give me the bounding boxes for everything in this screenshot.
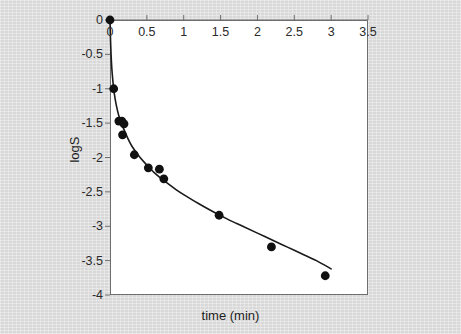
data-point xyxy=(106,16,115,25)
x-tick-label: 3 xyxy=(328,26,335,39)
y-tick-label: -4 xyxy=(62,289,103,302)
data-point xyxy=(120,119,129,128)
x-axis-title: time (min) xyxy=(0,308,461,323)
y-tick-label: 0 xyxy=(62,14,103,27)
y-tick-label: -3.5 xyxy=(62,254,103,267)
y-tick-label: -2.5 xyxy=(62,186,103,199)
figure-container: 00.511.522.533.5 0-0.5-1-1.5-2-2.5-3-3.5… xyxy=(0,0,461,334)
x-tick-label: 1 xyxy=(180,26,187,39)
data-point xyxy=(155,165,164,174)
y-tick-label: -1 xyxy=(62,83,103,96)
data-point xyxy=(144,163,153,172)
y-tick-label: -3 xyxy=(62,220,103,233)
y-axis-title: logS xyxy=(67,136,82,162)
x-tick-label: 0.5 xyxy=(138,26,155,39)
data-point xyxy=(159,174,168,183)
x-tick-label: 0 xyxy=(107,26,114,39)
data-point-group xyxy=(106,16,330,281)
x-tick-label: 1.5 xyxy=(212,26,229,39)
y-tick-label: -1.5 xyxy=(62,117,103,130)
data-point xyxy=(118,130,127,139)
axis-tick-marks xyxy=(105,15,368,295)
y-tick-label: -0.5 xyxy=(62,48,103,61)
data-point xyxy=(215,211,224,220)
data-point xyxy=(321,271,330,280)
data-point xyxy=(109,84,118,93)
data-point xyxy=(130,150,139,159)
x-tick-label: 2 xyxy=(254,26,261,39)
fitted-curve xyxy=(110,20,331,269)
data-point xyxy=(267,242,276,251)
x-tick-label: 3.5 xyxy=(359,26,376,39)
x-tick-label: 2.5 xyxy=(286,26,303,39)
